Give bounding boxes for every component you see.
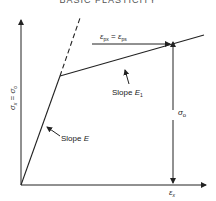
- strain-label: εpx = εps: [100, 32, 127, 42]
- elastic-line: [21, 76, 60, 185]
- stress-strain-diagram: εpx = εps σo Slope E1 Slope E σx = σo εx: [0, 0, 216, 201]
- slope-e-label: Slope E: [61, 134, 90, 143]
- plastic-line: [60, 35, 204, 76]
- slope-e1-pointer: [125, 70, 129, 84]
- slope-e-pointer: [47, 127, 60, 136]
- stress-label: σo: [178, 108, 187, 118]
- slope-e1-label: Slope E1: [112, 88, 143, 98]
- x-axis-label: εx: [169, 188, 176, 198]
- y-axis-label: σx = σo: [8, 86, 18, 110]
- elastic-extension-dashed: [60, 18, 80, 76]
